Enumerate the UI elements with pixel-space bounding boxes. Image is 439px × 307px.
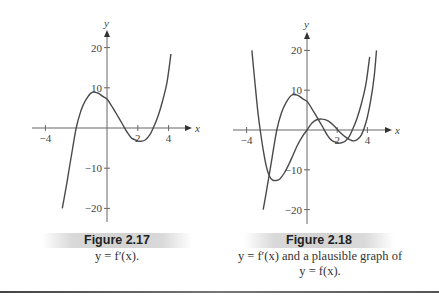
axes: x y [233, 18, 400, 224]
y-tick-label: 20 [291, 44, 303, 56]
y-tick-label: −10 [85, 162, 103, 174]
x-tick-label: 4 [365, 134, 371, 146]
x-tick-label: −4 [241, 134, 253, 146]
caption-line: y = f′(x) and a plausible graph of [224, 249, 416, 264]
y-axis-arrow-icon [304, 32, 310, 39]
y-tick-label: −20 [285, 204, 303, 216]
x-axis-arrow-icon [385, 127, 392, 133]
derivative-curve [62, 54, 171, 208]
x-tick-label: 4 [166, 132, 172, 144]
derivative-curve [263, 57, 370, 210]
x-tick-label: −4 [40, 132, 52, 144]
figure-2-17-plot: x y −4242010−10−20 [0, 0, 220, 230]
y-tick-label: 20 [91, 42, 103, 54]
y-axis-arrow-icon [104, 30, 110, 37]
section-divider [0, 291, 439, 293]
x-axis-arrow-icon [185, 125, 192, 131]
y-tick-label: −20 [85, 202, 103, 214]
x-tick-label: 2 [135, 132, 141, 144]
figure-2-18-label: Figure 2.18 [244, 233, 394, 248]
series [62, 54, 171, 208]
y-axis-label: y [303, 18, 309, 30]
y-axis-label: y [103, 17, 109, 29]
figure-2-18-caption: y = f′(x) and a plausible graph of y = f… [224, 249, 416, 279]
figure-2-17-label: Figure 2.17 [42, 233, 192, 248]
figure-2-17-caption: y = f′(x). [42, 249, 192, 264]
axes: x y [32, 17, 200, 222]
x-axis-label: x [194, 122, 200, 134]
y-tick-label: −10 [285, 164, 303, 176]
x-tick-label: 2 [334, 134, 340, 146]
caption-line: y = f(x). [224, 264, 416, 279]
caption-line: y = f′(x). [42, 249, 192, 264]
figure-2-18-plot: x y −4242010−10−20 [219, 0, 439, 230]
x-axis-label: x [394, 124, 400, 136]
